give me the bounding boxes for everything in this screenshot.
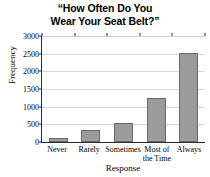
bar-slot <box>75 36 108 142</box>
x-tick-label: Sometimes <box>105 145 141 163</box>
x-tick-label-line: Always <box>177 145 201 154</box>
bar-slot <box>107 36 140 142</box>
x-tick-label-line: Sometimes <box>105 145 141 154</box>
bar-slot <box>42 36 75 142</box>
chart-title-line-1: “How Often Do You <box>0 2 210 15</box>
bar <box>147 98 166 142</box>
x-tick-label: Always <box>173 145 205 163</box>
x-tick-label-line: Most of <box>144 145 169 154</box>
y-tick-label: 2500 <box>23 49 39 58</box>
x-tick-mark <box>107 33 108 36</box>
x-tick-mark <box>139 33 140 36</box>
x-axis-label: Response <box>41 163 205 173</box>
x-tick-label: Rarely <box>73 145 105 163</box>
bar <box>179 53 198 142</box>
chart-title: “How Often Do You Wear Your Seat Belt?” <box>0 2 210 27</box>
bar <box>81 130 100 142</box>
x-tick-mark <box>42 33 43 36</box>
x-tick-mark <box>205 33 206 36</box>
x-tick-label: Most ofthe Time <box>141 145 173 163</box>
y-tick-label: 500 <box>27 120 39 129</box>
x-tick-label-line: Never <box>47 145 67 154</box>
x-tick-mark <box>74 33 75 36</box>
y-tick-label: 0 <box>35 138 39 147</box>
bar-chart: “How Often Do You Wear Your Seat Belt?” … <box>0 0 210 177</box>
x-tick-label: Never <box>41 145 73 163</box>
x-tick-mark <box>172 33 173 36</box>
chart-title-line-2: Wear Your Seat Belt?” <box>0 15 210 28</box>
bar <box>114 123 133 142</box>
y-axis-label: Frequency <box>7 35 17 95</box>
bar-slot <box>140 36 173 142</box>
y-tick-label: 1000 <box>23 102 39 111</box>
x-tick-label-line: the Time <box>141 154 173 163</box>
bar-slot <box>172 36 205 142</box>
bar-series <box>42 36 205 142</box>
plot-area: 050010001500200025003000 <box>41 36 205 143</box>
x-tick-label-line: Rarely <box>79 145 100 154</box>
bar <box>49 138 68 142</box>
y-tick-label: 2000 <box>23 67 39 76</box>
y-tick-label: 1500 <box>23 85 39 94</box>
x-axis-tick-labels: NeverRarelySometimesMost ofthe TimeAlway… <box>41 145 205 163</box>
y-tick-label: 3000 <box>23 32 39 41</box>
